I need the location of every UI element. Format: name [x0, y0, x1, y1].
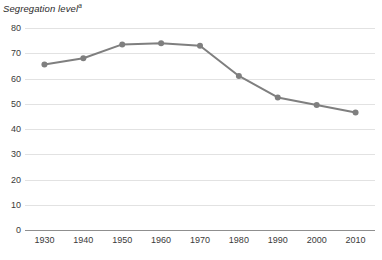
- x-axis-tick-label-1930: 1930: [34, 236, 54, 245]
- y-axis-tick-label-0: 0: [1, 226, 21, 235]
- x-axis-tick-label-2010: 2010: [346, 236, 366, 245]
- x-axis-tick-label-1940: 1940: [73, 236, 93, 245]
- x-axis-tick-label-1970: 1970: [190, 236, 210, 245]
- y-axis-tick-label-50: 50: [1, 99, 21, 108]
- y-axis-tick-label-80: 80: [1, 24, 21, 33]
- data-point-1930: [41, 62, 47, 68]
- chart-title: Segregation levela: [3, 2, 82, 14]
- y-axis-tick-label-40: 40: [1, 125, 21, 134]
- data-point-1980: [236, 73, 242, 79]
- y-axis-labels: 01020304050607080: [0, 28, 21, 230]
- x-axis-line: [25, 230, 375, 231]
- series-line-segregation-level: [25, 28, 375, 230]
- data-point-1950: [119, 41, 125, 47]
- x-axis-tick-label-1990: 1990: [268, 236, 288, 245]
- chart-title-footnote-marker: a: [78, 2, 82, 9]
- data-point-2000: [314, 102, 320, 108]
- chart-container: Segregation levela 01020304050607080 193…: [0, 0, 382, 260]
- y-axis-tick-label-20: 20: [1, 175, 21, 184]
- y-axis-tick-label-10: 10: [1, 200, 21, 209]
- plot-area: [25, 28, 375, 230]
- y-axis-tick-label-60: 60: [1, 74, 21, 83]
- chart-title-text: Segregation level: [3, 3, 78, 14]
- data-point-1960: [158, 40, 164, 46]
- y-axis-tick-label-30: 30: [1, 150, 21, 159]
- x-axis-tick-label-1960: 1960: [151, 236, 171, 245]
- y-axis-tick-label-70: 70: [1, 49, 21, 58]
- data-point-2010: [353, 110, 359, 116]
- data-point-1970: [197, 43, 203, 49]
- x-axis-tick-label-1950: 1950: [112, 236, 132, 245]
- data-point-1940: [80, 55, 86, 61]
- x-axis-labels: 193019401950196019701980199020002010: [25, 236, 375, 250]
- data-point-1990: [275, 94, 281, 100]
- x-axis-tick-label-2000: 2000: [307, 236, 327, 245]
- x-axis-tick-label-1980: 1980: [229, 236, 249, 245]
- series-polyline: [44, 43, 355, 112]
